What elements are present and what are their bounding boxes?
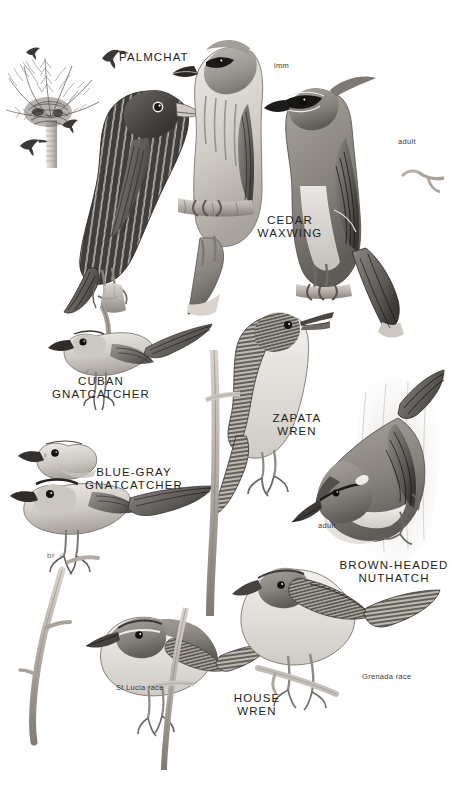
- palm-tree-figure: [6, 58, 99, 168]
- species-label-cuban-gnatcatcher: CUBAN GNATCATCHER: [31, 375, 171, 401]
- species-label-house-wren: HOUSE WREN: [219, 692, 295, 718]
- species-label-zapata-wren: ZAPATA WREN: [259, 412, 335, 438]
- sex-symbol-blue-gray-gnatcatcher-female: ♀: [42, 452, 49, 461]
- sex-symbol-cuban-gnatcatcher-male: ♂: [84, 368, 91, 377]
- species-label-brown-headed-nuthatch: BROWN-HEADED NUTHATCH: [324, 559, 464, 585]
- cedar-waxwing-adult-figure: [264, 77, 444, 338]
- illustration-plate: PALMCHAT CEDAR WAXWING CUBAN GNATCATCHER…: [0, 0, 469, 794]
- brown-headed-nuthatch-figure: [292, 370, 444, 564]
- cedar-waxwing-immature-figure: [172, 40, 263, 316]
- annotation-house-wren-st-lucia-race: St Lucia race: [116, 684, 164, 692]
- palmchat-figure: [64, 90, 201, 344]
- annotation-waxwing-imm: imm: [274, 62, 289, 70]
- flying-palmchat-silhouette-a: [20, 139, 48, 156]
- sex-symbol-blue-gray-gnatcatcher-breeding-male: br ♂: [47, 552, 65, 561]
- annotation-house-wren-grenada-race: Grenada race: [362, 673, 411, 681]
- species-label-blue-gray-gnatcatcher: BLUE-GRAY GNATCATCHER: [64, 466, 204, 492]
- flying-palmchat-silhouette-c: [26, 47, 40, 59]
- annotation-waxwing-adult: adult: [398, 138, 416, 146]
- species-label-palmchat: PALMCHAT: [119, 51, 189, 64]
- species-label-cedar-waxwing: CEDAR WAXWING: [252, 214, 328, 240]
- zapata-wren-figure: [206, 312, 334, 616]
- annotation-nuthatch-adult: adult: [318, 522, 336, 530]
- blue-gray-gnatcatcher-male-figure: [10, 480, 212, 575]
- house-wren-grenada-figure: [232, 568, 440, 710]
- bare-branch-figure: [20, 557, 98, 742]
